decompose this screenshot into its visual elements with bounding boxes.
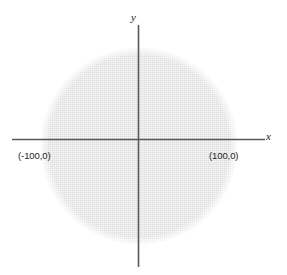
plot-canvas — [0, 0, 287, 275]
point-label-left: (-100,0) — [18, 151, 50, 161]
y-axis-label: y — [131, 12, 136, 23]
point-label-right: (100,0) — [209, 151, 238, 161]
x-axis-label: x — [266, 131, 271, 142]
coordinate-plane-figure: x y (-100,0) (100,0) — [0, 0, 287, 275]
